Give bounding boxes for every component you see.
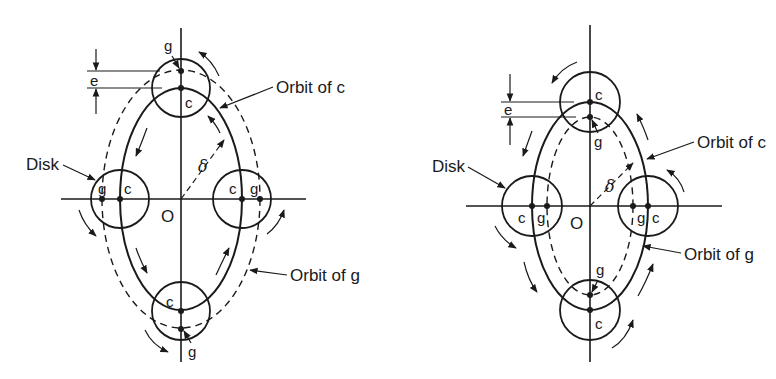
rotation-arrow	[667, 170, 684, 192]
g-bottom-pointer	[184, 331, 191, 343]
right-diagram: e δ O c g c g c g g c Disk Orbit of c Or…	[432, 25, 766, 362]
label-c-right: c	[229, 180, 237, 197]
label-orbit-g: Orbit of g	[684, 245, 754, 264]
label-orbit-g: Orbit of g	[290, 266, 360, 285]
label-e: e	[504, 101, 512, 118]
label-orbit-c: Orbit of c	[276, 78, 345, 97]
rotation-arrow	[136, 128, 147, 156]
orbit-g-pointer	[643, 246, 681, 253]
label-g-bottom: g	[188, 343, 196, 360]
label-c-left: c	[518, 209, 526, 226]
label-g-left: g	[537, 209, 545, 226]
rotation-arrow	[199, 52, 219, 76]
orbit-c-pointer	[220, 87, 273, 108]
label-e: e	[90, 72, 98, 89]
rotation-arrow	[638, 264, 653, 296]
point-c-bottom	[587, 307, 593, 313]
label-g-top: g	[594, 133, 602, 150]
left-diagram: e δ O g c c g g c c g Disk Orbit of c Or…	[26, 28, 360, 362]
rotation-arrow	[612, 320, 633, 348]
label-orbit-c: Orbit of c	[697, 133, 766, 152]
rotation-arrow	[267, 210, 284, 234]
label-c-right: c	[652, 209, 660, 226]
point-c-top	[178, 85, 184, 91]
rotation-arrow	[208, 116, 220, 133]
disk-orbit-diagrams: e δ O g c c g g c c g Disk Orbit of c Or…	[0, 0, 776, 379]
orbit-g-pointer	[250, 270, 287, 275]
orbit-c-pointer	[647, 142, 694, 159]
g-bottom-pointer	[592, 280, 598, 292]
disk-pointer	[63, 165, 95, 180]
rotation-arrow	[145, 330, 168, 352]
point-c-bottom	[178, 308, 184, 314]
point-c-left	[529, 203, 535, 209]
rotation-arrow	[524, 262, 537, 292]
point-c-right	[645, 203, 651, 209]
rotation-arrow	[79, 210, 96, 236]
point-g-bottom	[587, 292, 593, 298]
label-g-top: g	[164, 37, 172, 54]
label-c-top: c	[185, 94, 193, 111]
rotation-arrow	[523, 131, 532, 156]
label-g-right: g	[250, 180, 258, 197]
g-top-pointer	[172, 56, 179, 68]
label-disk: Disk	[26, 155, 60, 174]
point-g-top	[178, 68, 184, 74]
point-c-right	[239, 196, 245, 202]
label-disk: Disk	[432, 157, 466, 176]
label-g-left: g	[98, 180, 106, 197]
label-origin: O	[570, 214, 583, 233]
point-g-right	[630, 203, 636, 209]
label-c-bottom: c	[166, 293, 174, 310]
label-c-bottom: c	[595, 315, 603, 332]
label-g-bottom: g	[596, 261, 604, 278]
rotation-arrow	[552, 62, 577, 83]
point-c-top	[587, 99, 593, 105]
point-c-left	[117, 196, 123, 202]
disk-pointer	[468, 167, 505, 188]
point-g-top	[587, 114, 593, 120]
rotation-arrow	[637, 114, 648, 140]
point-g-bottom	[178, 326, 184, 332]
rotation-arrow	[136, 248, 147, 273]
label-c-top: c	[595, 86, 603, 103]
label-origin: O	[161, 207, 174, 226]
label-delta: δ	[198, 157, 208, 176]
label-c-left: c	[124, 180, 132, 197]
label-delta: δ	[605, 177, 615, 196]
label-g-right: g	[637, 209, 645, 226]
